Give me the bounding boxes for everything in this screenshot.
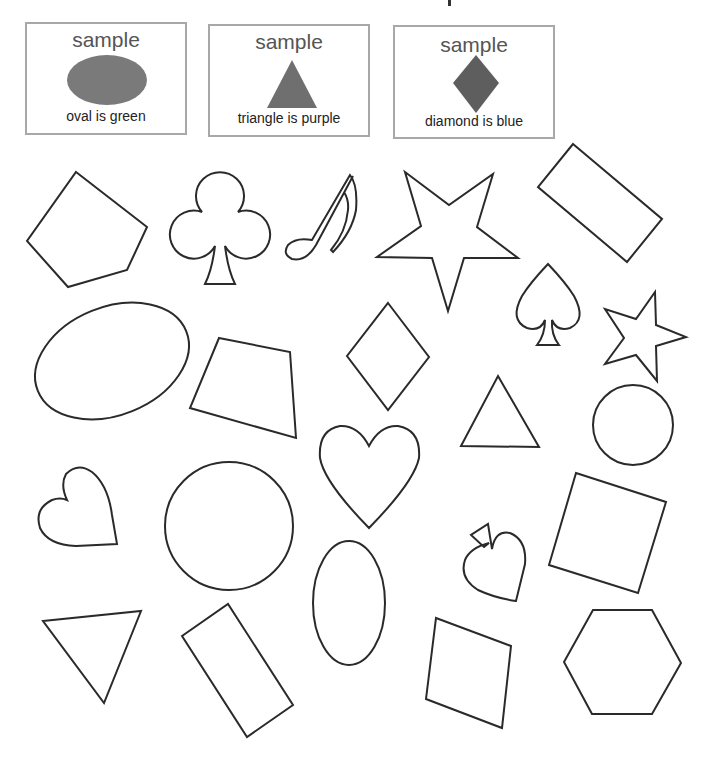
triangle-shape[interactable] <box>461 376 539 447</box>
small-star-shape[interactable] <box>605 292 686 381</box>
vertical-oval-shape[interactable] <box>313 541 385 665</box>
club-shape[interactable] <box>170 172 270 284</box>
rectangle-shape[interactable] <box>538 144 662 262</box>
trapezoid-shape[interactable] <box>190 338 296 438</box>
star-shape[interactable] <box>377 172 518 311</box>
shapes-canvas <box>0 0 714 759</box>
square-shape[interactable] <box>549 473 666 593</box>
circle-shape[interactable] <box>593 385 673 465</box>
bottom-triangle-shape[interactable] <box>43 611 141 703</box>
bottom-square-shape[interactable] <box>426 618 511 728</box>
heart-shape[interactable] <box>320 426 419 528</box>
pentagon-shape[interactable] <box>27 172 147 287</box>
small-heart-shape[interactable] <box>39 467 118 546</box>
big-circle-shape[interactable] <box>165 462 293 590</box>
bottom-rectangle-shape[interactable] <box>182 604 293 737</box>
diamond-shape[interactable] <box>347 303 429 410</box>
spade-shape[interactable] <box>517 264 580 345</box>
hexagon-shape[interactable] <box>564 610 681 714</box>
tilted-spade-shape[interactable] <box>464 524 526 601</box>
oval-shape[interactable] <box>18 281 207 441</box>
music-note-shape[interactable] <box>286 175 357 259</box>
